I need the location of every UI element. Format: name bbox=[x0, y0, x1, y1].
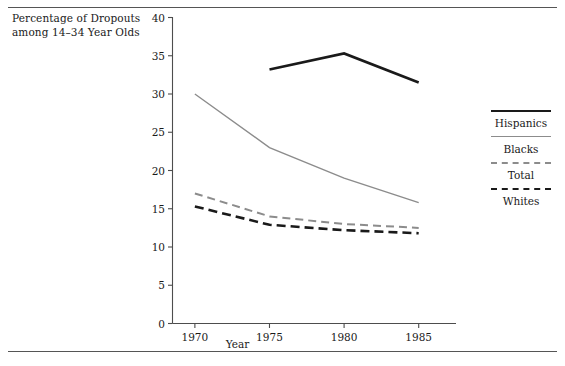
x-axis-label: Year bbox=[0, 338, 565, 350]
plot-area bbox=[0, 0, 565, 366]
y-tick-label: 25 bbox=[141, 127, 165, 138]
legend-entry: Blacks bbox=[484, 134, 558, 160]
y-tick-label: 40 bbox=[141, 13, 165, 24]
legend-swatch-whites bbox=[491, 188, 551, 190]
figure: Percentage of Dropouts among 14–34 Year … bbox=[0, 0, 565, 366]
legend-swatch-total bbox=[491, 162, 551, 164]
series-line-hispanics bbox=[269, 53, 418, 82]
axes bbox=[168, 17, 456, 328]
series-line-total bbox=[195, 193, 419, 227]
legend-swatch-blacks bbox=[491, 136, 551, 137]
data-series-group bbox=[195, 53, 419, 233]
chart-legend: HispanicsBlacksTotalWhites bbox=[484, 108, 558, 212]
legend-entry: Whites bbox=[484, 186, 558, 212]
legend-label: Whites bbox=[484, 195, 558, 207]
legend-label: Total bbox=[484, 169, 558, 181]
legend-swatch-hispanics bbox=[491, 110, 551, 112]
y-tick-label: 20 bbox=[141, 166, 165, 177]
series-line-whites bbox=[195, 206, 419, 233]
series-line-blacks bbox=[195, 94, 419, 203]
y-tick-label: 0 bbox=[141, 319, 165, 330]
legend-entry: Total bbox=[484, 160, 558, 186]
legend-label: Hispanics bbox=[484, 117, 558, 129]
y-tick-label: 30 bbox=[141, 89, 165, 100]
legend-label: Blacks bbox=[484, 143, 558, 155]
legend-entry: Hispanics bbox=[484, 108, 558, 134]
y-tick-label: 35 bbox=[141, 51, 165, 62]
y-tick-label: 5 bbox=[141, 280, 165, 291]
y-tick-label: 15 bbox=[141, 204, 165, 215]
y-tick-label: 10 bbox=[141, 242, 165, 253]
